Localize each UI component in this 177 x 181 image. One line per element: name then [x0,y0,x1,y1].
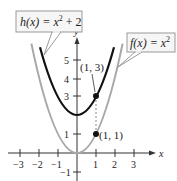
y-axis-arrow-icon [75,37,80,44]
h-label-main: h(x) = x [20,15,59,29]
x-axis-arrow-icon [149,151,156,156]
point-1-3-label: (1, 3) [80,61,104,74]
h-function-label-box: h(x) = x2 + 2 [16,11,82,55]
f-function-label-box: f(x) = x2 [118,33,175,67]
point-1-3 [93,93,99,99]
point-1-3-leader [92,74,95,92]
x-tick-label: −3 [13,159,24,170]
x-tick-label: 3 [131,159,136,170]
y-tick-label: 5 [64,55,69,66]
f-label-main: f(x) = x [130,36,167,50]
x-tick-label: −2 [32,159,43,170]
y-tick-label: −1 [60,167,71,178]
h-label-tail: + 2 [63,15,82,29]
parabola-graph: x y −3 −2 −1 1 2 3 5 4 3 1 −1 (1, 3) (1,… [0,0,177,181]
y-tick-label: 1 [64,129,69,140]
x-tick-label: 1 [93,159,98,170]
f-label-sup: 2 [166,35,170,44]
x-axis-label: x [158,148,164,159]
svg-text:f(x) = x2: f(x) = x2 [130,35,170,50]
point-1-1-label: (1, 1) [99,129,123,142]
svg-text:h(x) = x2 + 2: h(x) = x2 + 2 [20,14,82,29]
y-tick-label: 4 [64,74,69,85]
x-tick-label: 2 [112,159,117,170]
y-tick-label: 3 [64,91,69,102]
